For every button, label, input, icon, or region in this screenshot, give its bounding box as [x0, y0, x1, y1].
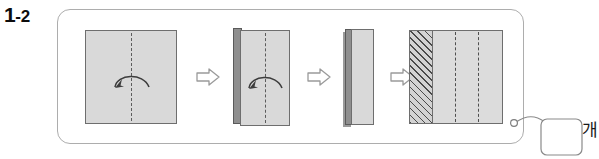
step-figure-3: [343, 28, 379, 127]
paper-sheet-step-3: [351, 29, 374, 125]
fold-arrow-step-1: [107, 67, 155, 91]
step-number-label: 1-2: [4, 4, 30, 25]
step-figure-2: [233, 28, 291, 127]
arrow-right-icon-1: [195, 67, 221, 87]
step-figure-1: [85, 30, 177, 124]
hatched-region-step-4: [410, 31, 433, 123]
step-major-number: 1: [4, 3, 15, 26]
fold-arrow-step-2: [242, 68, 288, 92]
fold-line-step-4-a: [455, 32, 456, 122]
step-minor-number: 2: [21, 7, 30, 26]
fold-line-step-4-b: [478, 32, 479, 122]
step-figure-4: [409, 30, 503, 124]
arrow-right-icon-2: [306, 67, 332, 87]
instruction-panel: [57, 9, 524, 144]
connector-label: 개: [582, 122, 598, 139]
